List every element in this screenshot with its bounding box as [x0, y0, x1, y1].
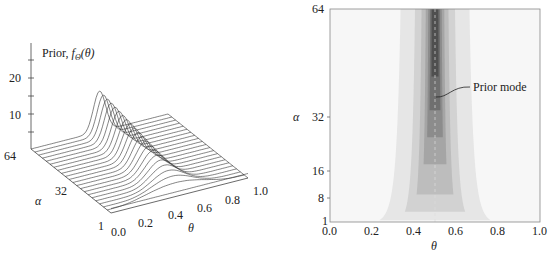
x-tick-8: 0.8	[490, 224, 505, 238]
contour-plot: 64 32 16 8 1 α 0.0 0.2 0.4 0.6 0.8 1.0 θ…	[293, 2, 547, 253]
z-tick-20: 20	[9, 71, 21, 85]
theta-tick-8: 0.8	[225, 193, 240, 207]
theta-tick-2: 0.2	[138, 216, 153, 230]
y-ticks	[327, 117, 330, 198]
theta-tick-0: 0.0	[111, 225, 126, 239]
surface-plot: 20 10 Prior, fΘ(θ) 64 32 1 α 0.0 0.2 0.4…	[4, 43, 268, 239]
x-tick-10: 1.0	[532, 224, 547, 238]
wire-curve	[92, 160, 229, 198]
alpha-tick-32: 32	[55, 184, 67, 198]
theta-tick-10: 1.0	[253, 184, 268, 198]
x-axis-label: θ	[431, 239, 437, 253]
prior-mode-annotation: Prior mode	[473, 80, 527, 94]
x-tick-0: 0.0	[322, 224, 337, 238]
theta-tick-4: 0.4	[168, 208, 183, 222]
alpha-axis-label: α	[35, 194, 42, 208]
y-tick-32: 32	[312, 110, 324, 124]
x-tick-4: 0.4	[406, 224, 421, 238]
x-tick-2: 0.2	[364, 224, 379, 238]
z-axis-label: Prior, fΘ(θ)	[42, 46, 95, 62]
contour-band	[431, 9, 438, 77]
y-tick-64: 64	[312, 2, 324, 16]
alpha-tick-1: 1	[98, 219, 104, 233]
x-tick-6: 0.6	[448, 224, 463, 238]
alpha-tick-64: 64	[4, 149, 16, 163]
theta-tick-6: 0.6	[197, 201, 212, 215]
theta-axis-label: θ	[188, 221, 194, 235]
y-axis-label: α	[293, 110, 300, 124]
y-tick-16: 16	[312, 164, 324, 178]
wire-curve	[42, 103, 179, 158]
figure: 20 10 Prior, fΘ(θ) 64 32 1 α 0.0 0.2 0.4…	[0, 0, 558, 262]
z-tick-10: 10	[9, 108, 21, 122]
y-tick-8: 8	[318, 191, 324, 205]
